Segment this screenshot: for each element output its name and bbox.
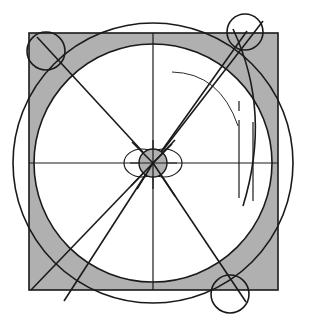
diagram-root — [0, 0, 311, 327]
geometry-canvas — [0, 0, 311, 327]
